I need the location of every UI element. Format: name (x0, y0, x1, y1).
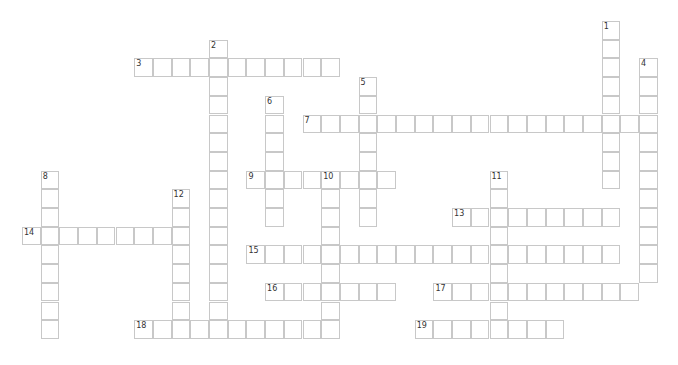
crossword-cell[interactable]: 11 (490, 171, 509, 190)
crossword-cell[interactable] (265, 208, 284, 227)
crossword-cell[interactable] (41, 283, 60, 302)
crossword-cell[interactable] (41, 208, 60, 227)
crossword-cell[interactable] (284, 171, 303, 190)
crossword-cell[interactable] (209, 264, 228, 283)
crossword-cell[interactable] (303, 171, 322, 190)
crossword-cell[interactable] (377, 283, 396, 302)
crossword-cell[interactable] (228, 58, 247, 77)
crossword-cell[interactable] (41, 302, 60, 321)
crossword-cell[interactable] (415, 245, 434, 264)
crossword-cell[interactable] (602, 77, 621, 96)
crossword-cell[interactable] (433, 115, 452, 134)
crossword-cell[interactable] (639, 152, 658, 171)
crossword-cell[interactable] (433, 245, 452, 264)
crossword-cell[interactable]: 8 (41, 171, 60, 190)
crossword-cell[interactable] (209, 77, 228, 96)
crossword-cell[interactable] (602, 283, 621, 302)
crossword-cell[interactable] (508, 208, 527, 227)
crossword-cell[interactable] (284, 320, 303, 339)
crossword-cell[interactable] (639, 245, 658, 264)
crossword-cell[interactable] (602, 40, 621, 59)
crossword-cell[interactable] (265, 58, 284, 77)
crossword-cell[interactable] (377, 245, 396, 264)
crossword-cell[interactable]: 19 (415, 320, 434, 339)
crossword-cell[interactable] (321, 245, 340, 264)
crossword-cell[interactable] (359, 133, 378, 152)
crossword-cell[interactable] (639, 115, 658, 134)
crossword-cell[interactable] (134, 227, 153, 246)
crossword-cell[interactable] (41, 320, 60, 339)
crossword-cell[interactable] (340, 115, 359, 134)
crossword-cell[interactable]: 2 (209, 40, 228, 59)
crossword-cell[interactable] (527, 115, 546, 134)
crossword-cell[interactable] (583, 283, 602, 302)
crossword-cell[interactable] (209, 283, 228, 302)
crossword-cell[interactable] (303, 245, 322, 264)
crossword-cell[interactable] (172, 208, 191, 227)
crossword-cell[interactable] (583, 245, 602, 264)
crossword-cell[interactable] (490, 283, 509, 302)
crossword-cell[interactable] (359, 245, 378, 264)
crossword-cell[interactable] (639, 189, 658, 208)
crossword-cell[interactable] (452, 283, 471, 302)
crossword-cell[interactable] (359, 152, 378, 171)
crossword-cell[interactable] (359, 283, 378, 302)
crossword-cell[interactable] (620, 283, 639, 302)
crossword-cell[interactable] (321, 264, 340, 283)
crossword-cell[interactable] (209, 245, 228, 264)
crossword-cell[interactable] (209, 171, 228, 190)
crossword-cell[interactable] (41, 189, 60, 208)
crossword-cell[interactable]: 13 (452, 208, 471, 227)
crossword-cell[interactable]: 5 (359, 77, 378, 96)
crossword-cell[interactable] (602, 171, 621, 190)
crossword-cell[interactable] (471, 115, 490, 134)
crossword-cell[interactable] (172, 264, 191, 283)
crossword-cell[interactable] (209, 189, 228, 208)
crossword-cell[interactable] (321, 208, 340, 227)
crossword-cell[interactable] (321, 302, 340, 321)
crossword-cell[interactable] (602, 208, 621, 227)
crossword-cell[interactable]: 7 (303, 115, 322, 134)
crossword-cell[interactable] (209, 152, 228, 171)
crossword-cell[interactable] (265, 320, 284, 339)
crossword-cell[interactable] (265, 189, 284, 208)
crossword-cell[interactable] (209, 320, 228, 339)
crossword-cell[interactable] (583, 208, 602, 227)
crossword-cell[interactable] (359, 208, 378, 227)
crossword-cell[interactable] (490, 189, 509, 208)
crossword-cell[interactable]: 15 (246, 245, 265, 264)
crossword-cell[interactable]: 14 (22, 227, 41, 246)
crossword-cell[interactable] (490, 302, 509, 321)
crossword-cell[interactable] (508, 115, 527, 134)
crossword-cell[interactable] (546, 320, 565, 339)
crossword-cell[interactable]: 18 (134, 320, 153, 339)
crossword-cell[interactable] (452, 245, 471, 264)
crossword-cell[interactable] (490, 264, 509, 283)
crossword-cell[interactable] (321, 320, 340, 339)
crossword-cell[interactable] (359, 189, 378, 208)
crossword-cell[interactable] (490, 320, 509, 339)
crossword-cell[interactable] (564, 115, 583, 134)
crossword-cell[interactable]: 10 (321, 171, 340, 190)
crossword-cell[interactable] (284, 245, 303, 264)
crossword-cell[interactable]: 3 (134, 58, 153, 77)
crossword-cell[interactable] (490, 115, 509, 134)
crossword-cell[interactable] (228, 320, 247, 339)
crossword-cell[interactable] (602, 152, 621, 171)
crossword-cell[interactable] (639, 171, 658, 190)
crossword-cell[interactable] (359, 115, 378, 134)
crossword-cell[interactable] (508, 283, 527, 302)
crossword-cell[interactable] (41, 227, 60, 246)
crossword-cell[interactable] (265, 152, 284, 171)
crossword-cell[interactable] (546, 208, 565, 227)
crossword-cell[interactable] (265, 245, 284, 264)
crossword-cell[interactable] (583, 115, 602, 134)
crossword-cell[interactable] (209, 227, 228, 246)
crossword-cell[interactable] (303, 58, 322, 77)
crossword-cell[interactable] (639, 208, 658, 227)
crossword-cell[interactable] (78, 227, 97, 246)
crossword-cell[interactable] (471, 320, 490, 339)
crossword-cell[interactable] (303, 320, 322, 339)
crossword-cell[interactable] (639, 133, 658, 152)
crossword-cell[interactable] (471, 208, 490, 227)
